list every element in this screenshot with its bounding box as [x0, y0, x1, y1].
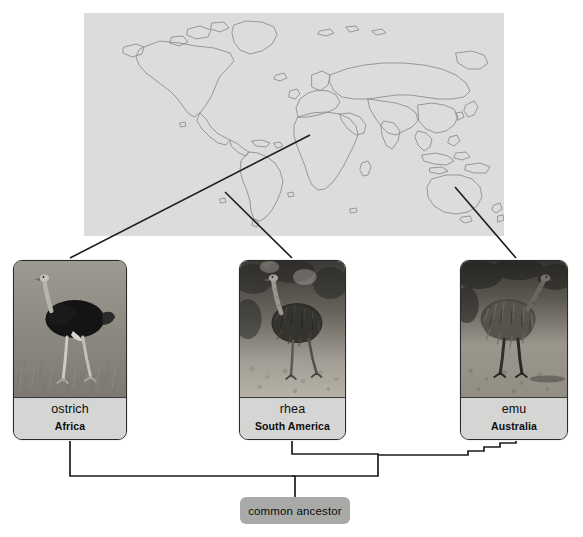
rhea-photo	[240, 261, 345, 398]
emu-region: Australia	[461, 418, 567, 435]
emu-photo	[461, 261, 567, 398]
emu-photo-illustration	[461, 261, 567, 397]
world-map	[84, 13, 504, 236]
branch-root-stem	[279, 476, 295, 497]
rhea-region: South America	[240, 418, 345, 435]
rhea-label-band: rhea South America	[240, 398, 345, 439]
ostrich-photo-illustration	[14, 261, 126, 397]
common-ancestor-node[interactable]: common ancestor	[240, 497, 350, 524]
cladogram-figure: ostrich Africa	[0, 0, 583, 537]
rhea-common-name: rhea	[240, 400, 345, 418]
species-card-emu[interactable]: emu Australia	[460, 260, 568, 440]
branch-rhea	[292, 441, 378, 476]
emu-common-name: emu	[461, 400, 567, 418]
ostrich-region: Africa	[14, 418, 126, 435]
species-card-rhea[interactable]: rhea South America	[239, 260, 346, 440]
common-ancestor-label: common ancestor	[248, 505, 342, 517]
rhea-photo-illustration	[240, 261, 345, 397]
species-card-ostrich[interactable]: ostrich Africa	[13, 260, 127, 440]
ostrich-common-name: ostrich	[14, 400, 126, 418]
ostrich-label-band: ostrich Africa	[14, 398, 126, 439]
world-map-outlines	[84, 13, 504, 236]
emu-label-band: emu Australia	[461, 398, 567, 439]
branch-emu	[378, 441, 516, 455]
branch-ostrich	[70, 441, 279, 476]
ostrich-photo	[14, 261, 126, 398]
